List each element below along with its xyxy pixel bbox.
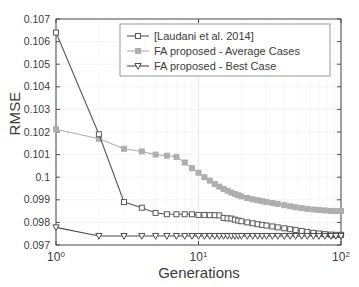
x-tick-labels: 100101102 [47, 250, 350, 265]
data-marker [182, 212, 187, 217]
data-marker [136, 49, 141, 54]
data-marker [153, 210, 158, 215]
data-marker [316, 207, 321, 212]
x-axis-label: Generations [56, 264, 342, 281]
data-marker [299, 228, 304, 233]
data-marker [189, 212, 194, 217]
data-marker [54, 127, 59, 132]
data-marker [264, 200, 269, 205]
y-tick-label: 0.097 [24, 239, 50, 251]
data-marker [207, 178, 212, 183]
y-tick-label: 0.099 [24, 193, 50, 205]
data-marker [121, 200, 126, 205]
y-tick-label: 0.102 [24, 126, 50, 138]
data-marker [299, 206, 304, 211]
y-tick-label: 0.101 [24, 148, 50, 160]
data-marker [282, 226, 287, 231]
x-tick-label: 102 [332, 250, 350, 265]
data-marker [139, 205, 144, 210]
data-marker [189, 166, 194, 171]
data-marker [288, 227, 293, 232]
legend-label: [Laudani et al. 2014] [154, 30, 254, 42]
data-marker [164, 212, 169, 217]
data-marker [136, 34, 141, 39]
data-marker [164, 153, 169, 158]
y-tick-labels: 0.0970.0980.0990.10.1010.1020.1030.1040.… [24, 13, 50, 251]
y-tick-label: 0.104 [24, 80, 50, 92]
plot-area: 0.0970.0980.0990.10.1010.1020.1030.1040.… [0, 0, 359, 287]
data-marker [328, 208, 333, 213]
data-marker [339, 209, 344, 214]
data-marker [293, 228, 298, 233]
x-tick-label: 101 [190, 250, 208, 265]
legend-label: FA proposed - Average Cases [154, 45, 300, 57]
data-marker [207, 213, 212, 218]
data-marker [275, 225, 280, 230]
data-marker [54, 30, 59, 35]
data-marker [202, 175, 207, 180]
data-marker [311, 207, 316, 212]
data-marker [264, 223, 269, 228]
data-marker [196, 170, 201, 175]
y-tick-label: 0.107 [24, 13, 50, 25]
data-marker [174, 212, 179, 217]
data-marker [196, 212, 201, 217]
data-marker [139, 149, 144, 154]
y-tick-label: 0.098 [24, 216, 50, 228]
data-marker [153, 152, 158, 157]
data-marker [288, 204, 293, 209]
y-tick-label: 0.1 [35, 171, 50, 183]
data-marker [293, 205, 298, 210]
y-tick-label: 0.103 [24, 103, 50, 115]
data-marker [245, 195, 250, 200]
data-marker [239, 219, 244, 224]
data-marker [305, 206, 310, 211]
data-marker [250, 197, 255, 202]
data-marker [270, 200, 275, 205]
data-marker [239, 194, 244, 199]
data-marker [322, 208, 327, 213]
data-marker [333, 209, 338, 214]
chart-legend[interactable]: [Laudani et al. 2014]FA proposed - Avera… [120, 24, 330, 76]
data-marker [202, 212, 207, 217]
chart-figure: RMSE Generations 0.0970.0980.0990.10.101… [0, 0, 359, 287]
y-tick-label: 0.105 [24, 58, 50, 70]
data-marker [96, 132, 101, 137]
data-marker [182, 160, 187, 165]
data-marker [275, 201, 280, 206]
data-marker [245, 220, 250, 225]
data-marker [121, 146, 126, 151]
data-marker [250, 221, 255, 226]
data-marker [270, 224, 275, 229]
y-axis-label: RMSE [6, 78, 23, 150]
data-marker [174, 154, 179, 159]
legend-item-1[interactable]: FA proposed - Average Cases [127, 45, 300, 57]
y-tick-label: 0.106 [24, 35, 50, 47]
x-tick-label: 100 [47, 250, 65, 265]
data-marker [282, 203, 287, 208]
legend-label: FA proposed - Best Case [154, 60, 276, 72]
